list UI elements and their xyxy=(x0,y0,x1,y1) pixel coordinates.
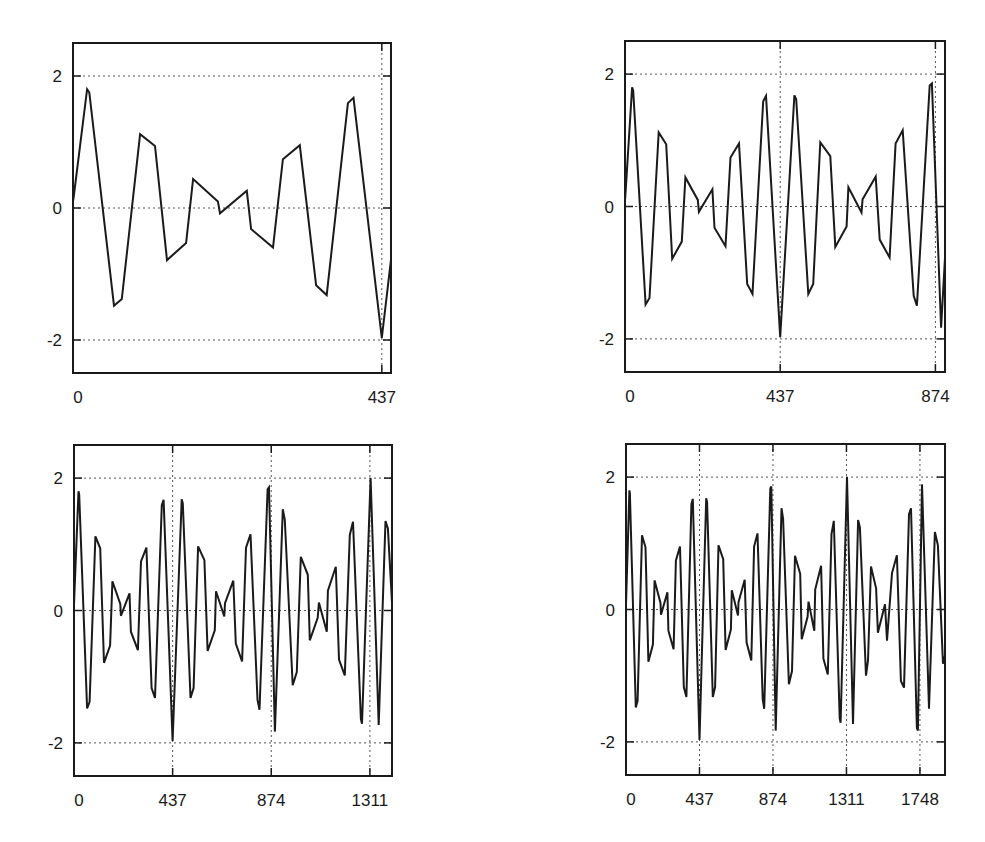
x-tick-label: 1748 xyxy=(901,790,939,809)
signal-line xyxy=(625,83,945,337)
y-tick-label: -2 xyxy=(599,330,614,349)
x-tick-label: 437 xyxy=(766,387,794,406)
signal-line xyxy=(626,477,945,740)
signal-line xyxy=(73,89,391,338)
signal-line xyxy=(74,478,392,741)
x-tick-label: 0 xyxy=(74,791,83,810)
y-tick-label: 2 xyxy=(54,469,63,488)
x-tick-label: 874 xyxy=(759,790,787,809)
panel-bottom-right: -202043787413111748 xyxy=(600,444,945,809)
x-tick-label: 1311 xyxy=(828,790,865,809)
y-tick-label: 2 xyxy=(605,65,614,84)
x-tick-label: 0 xyxy=(73,388,82,407)
panel-bottom-left: -20204378741311 xyxy=(48,445,392,810)
y-tick-label: 0 xyxy=(54,602,63,621)
y-tick-label: -2 xyxy=(47,331,62,350)
y-tick-label: 0 xyxy=(606,601,615,620)
panel-top-right: -2020437874 xyxy=(599,41,950,406)
x-tick-label: 437 xyxy=(685,790,713,809)
x-tick-label: 437 xyxy=(368,388,396,407)
y-tick-label: -2 xyxy=(48,734,63,753)
y-tick-label: -2 xyxy=(600,733,615,752)
panel-top-left: -2020437 xyxy=(47,43,396,407)
y-tick-label: 2 xyxy=(53,67,62,86)
y-tick-label: 2 xyxy=(606,468,615,487)
y-tick-label: 0 xyxy=(53,199,62,218)
x-tick-label: 1311 xyxy=(352,791,389,810)
x-tick-label: 0 xyxy=(625,387,634,406)
x-tick-label: 874 xyxy=(921,387,949,406)
x-tick-label: 437 xyxy=(158,791,186,810)
x-tick-label: 874 xyxy=(257,791,285,810)
y-tick-label: 0 xyxy=(605,198,614,217)
x-tick-label: 0 xyxy=(626,790,635,809)
figure: -2020437 -2020437874 -20204378741311 -20… xyxy=(0,0,985,842)
